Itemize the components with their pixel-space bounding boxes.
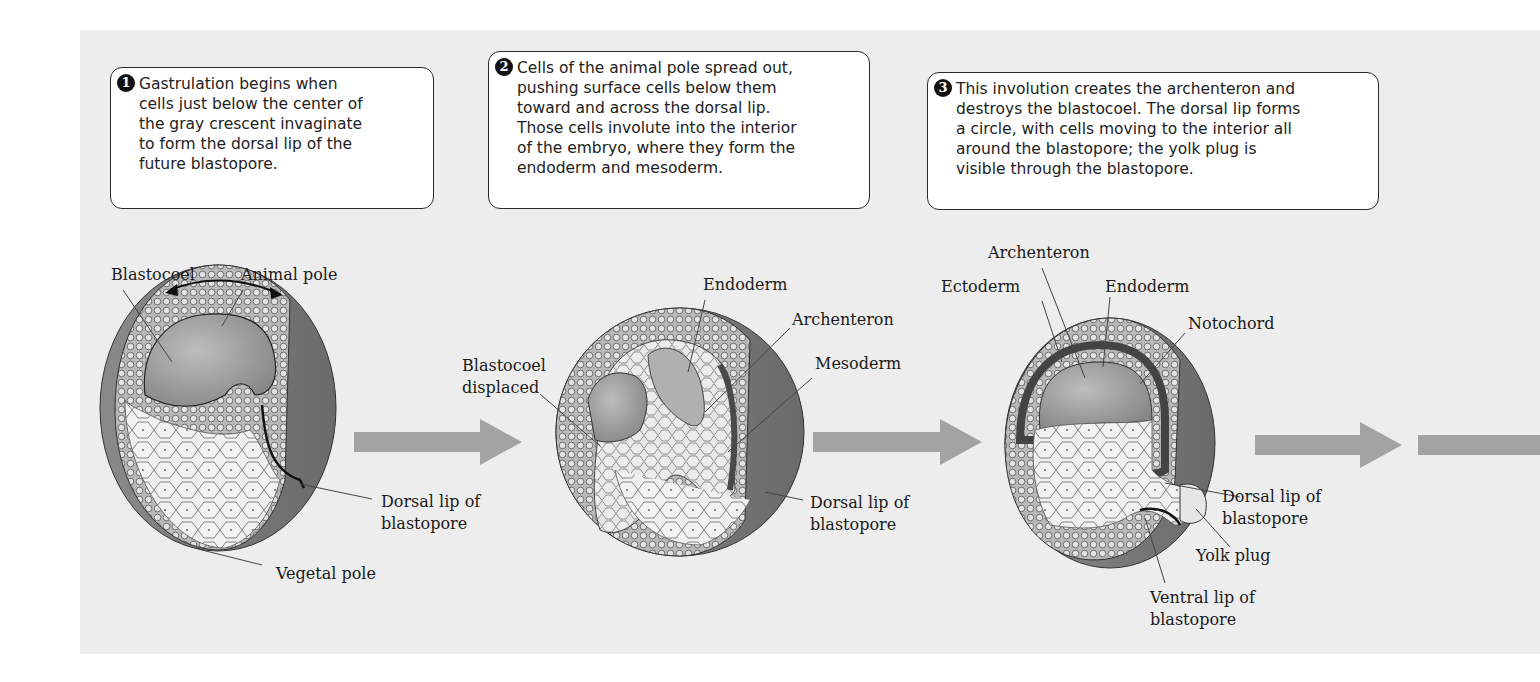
label-archenteron-3: Archenteron — [988, 242, 1090, 264]
label-blastocoel: Blastocoel — [111, 264, 195, 286]
label-dorsal-lip-1: Dorsal lip of blastopore — [381, 491, 480, 535]
label-dorsal-lip-3: Dorsal lip of blastopore — [1222, 486, 1321, 530]
embryo-3-drawing — [1005, 318, 1215, 568]
label-vegetal-pole: Vegetal pole — [276, 563, 376, 585]
label-yolk-plug: Yolk plug — [1196, 545, 1271, 567]
label-archenteron-2: Archenteron — [792, 309, 894, 331]
arrow-2-to-3 — [813, 419, 982, 465]
embryo-2-drawing — [556, 308, 804, 556]
label-notochord: Notochord — [1188, 313, 1274, 335]
label-endoderm-3: Endoderm — [1105, 276, 1189, 298]
arrows — [354, 419, 1540, 468]
label-ectoderm: Ectoderm — [941, 276, 1020, 298]
label-blastocoel-displaced: Blastocoel displaced — [462, 355, 546, 399]
arrow-3-to-4 — [1255, 422, 1402, 468]
label-dorsal-lip-2: Dorsal lip of blastopore — [810, 492, 909, 536]
diagram-drawings — [0, 0, 1540, 682]
label-animal-pole: Animal pole — [241, 264, 337, 286]
label-endoderm-2: Endoderm — [703, 274, 787, 296]
label-mesoderm: Mesoderm — [815, 353, 901, 375]
arrow-1-to-2 — [354, 419, 522, 465]
arrow-continuation — [1418, 435, 1540, 455]
label-ventral-lip: Ventral lip of blastopore — [1150, 587, 1255, 631]
